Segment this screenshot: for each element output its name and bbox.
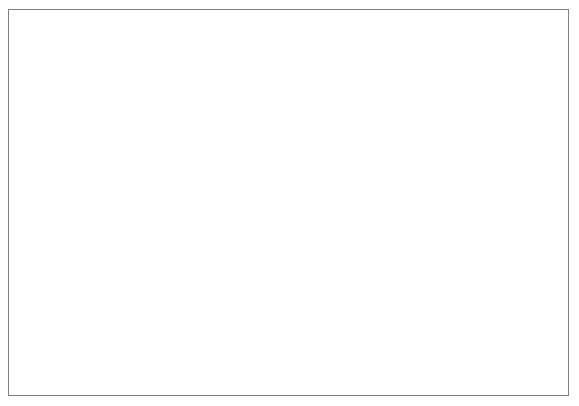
chart-container: 1101001000198219831984198519861987198819… (0, 0, 579, 406)
outer-frame-border (8, 9, 569, 396)
